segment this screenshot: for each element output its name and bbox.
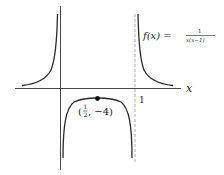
point-label-frac-den: 2	[84, 111, 88, 118]
function-graph: x 1 ( 1 2 , −4) f(x) = 1 x(x−1)	[0, 0, 224, 175]
point-label: ( 1 2 , −4)	[78, 103, 113, 118]
point-label-paren: (	[78, 106, 82, 117]
curve-right-branch	[138, 14, 173, 86]
tick-label-one: 1	[139, 95, 145, 105]
function-label: f(x) = 1 x(x−1)	[142, 28, 215, 43]
point-label-frac-num: 1	[84, 103, 88, 110]
function-label-numerator: 1	[198, 28, 202, 34]
function-label-lhs: f(x) =	[142, 30, 172, 41]
x-axis-label: x	[186, 82, 193, 95]
function-label-denominator: x(x−1)	[186, 37, 205, 43]
curve-left-branch	[22, 14, 58, 86]
critical-point-marker	[95, 96, 100, 101]
point-label-rest: , −4)	[88, 106, 113, 117]
